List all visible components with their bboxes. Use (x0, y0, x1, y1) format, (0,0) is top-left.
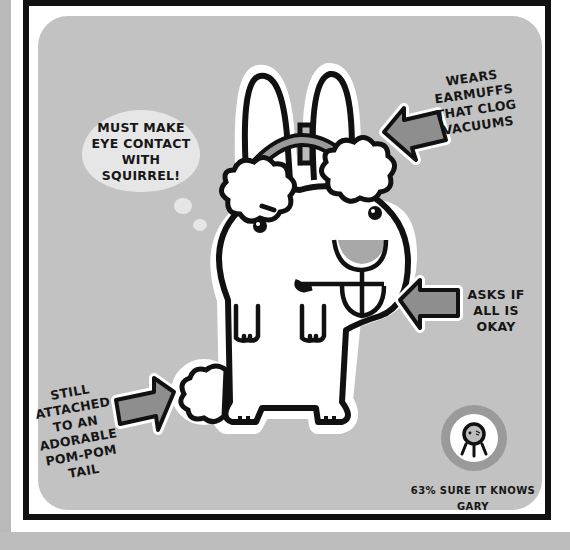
arrow-to-mouth (400, 280, 458, 328)
jellyfish-icon (464, 424, 484, 444)
earmuffs-annotation: WEARS EARMUFFS THAT CLOG VACUUMS (426, 64, 524, 140)
earmuff-left (221, 157, 294, 221)
arrow-to-tail (116, 378, 174, 430)
eye-left (253, 219, 267, 233)
badge-caption: 63% SURE IT KNOWS GARY (398, 483, 548, 515)
tail-annotation: STILL ATTACHED TO AN ADORABLE POM-POM TA… (26, 377, 127, 486)
jellyfish-badge (441, 405, 507, 471)
eye-right (368, 206, 382, 220)
asks-annotation: ASKS IF ALL IS OKAY (466, 287, 526, 335)
